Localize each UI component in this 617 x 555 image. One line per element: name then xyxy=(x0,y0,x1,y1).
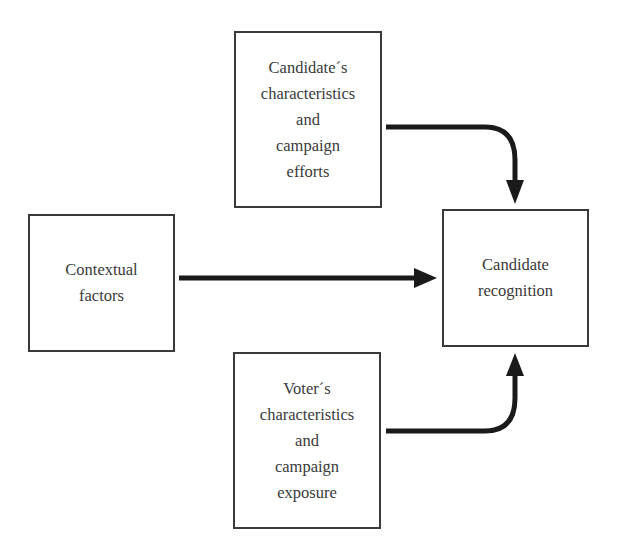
node-label: Voter´s characteristics and campaign exp… xyxy=(260,376,354,506)
node-label: Candidate recognition xyxy=(478,252,553,304)
node-contextual-factors: Contextual factors xyxy=(28,214,175,352)
node-candidate-recognition: Candidate recognition xyxy=(442,209,589,347)
node-voter-characteristics: Voter´s characteristics and campaign exp… xyxy=(233,352,381,529)
node-label: Candidate´s characteristics and campaign… xyxy=(261,55,355,185)
arrow-contextual-to-recognition xyxy=(179,268,437,288)
node-candidate-characteristics: Candidate´s characteristics and campaign… xyxy=(234,31,382,208)
node-label: Contextual factors xyxy=(65,257,137,309)
arrow-voter-to-recognition xyxy=(386,353,524,431)
arrow-candidate-to-recognition xyxy=(386,127,524,204)
